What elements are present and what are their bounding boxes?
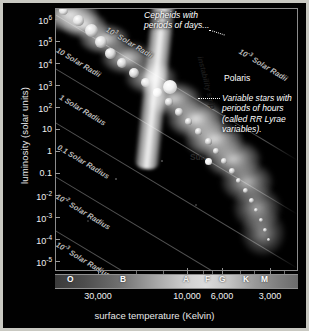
annotation-sun: Sun — [190, 152, 206, 162]
y-tick-10: 10 — [16, 124, 52, 134]
y-tick-mark — [55, 63, 60, 64]
y-axis-tick-group: 106 105 104 103 102 10 1 0.1 10-2 10-3 1… — [10, 0, 52, 331]
star-glow — [241, 210, 285, 256]
star-point — [195, 128, 202, 135]
x-tick-mark-minor — [212, 270, 213, 274]
star-point — [205, 138, 212, 145]
y-tick-1e4: 104 — [16, 58, 52, 70]
instability-strip-band — [133, 8, 177, 170]
spectral-class-m: M — [261, 274, 268, 284]
star-point — [267, 238, 270, 241]
x-tick-label-10000: 10,000 — [173, 291, 201, 301]
x-tick-mark-3000 — [270, 268, 271, 274]
x-tick-mark-minor — [203, 270, 204, 274]
spectral-class-a: A — [183, 274, 189, 284]
y-tick-mark — [55, 151, 60, 152]
x-tick-mark-minor — [284, 270, 285, 274]
y-tick-1e-2: 10-2 — [16, 190, 52, 202]
star-glow — [205, 140, 261, 178]
y-tick-mark — [55, 173, 60, 174]
spectral-class-f: F — [205, 274, 210, 284]
star-point — [221, 158, 227, 164]
y-tick-mark — [55, 85, 60, 86]
y-tick-1: 1 — [16, 146, 52, 156]
spectral-class-k: K — [243, 274, 249, 284]
annotation-cepheids: Cepheids with periods of days... — [144, 10, 209, 31]
y-tick-mark — [55, 217, 60, 218]
y-tick-1e3: 103 — [16, 80, 52, 92]
x-tick-mark-30000 — [98, 268, 99, 274]
star-point — [243, 188, 248, 193]
star-point — [185, 118, 192, 125]
star-point — [129, 68, 139, 78]
annotation-rr-lyrae: Variable stars with periods of hours (ca… — [222, 93, 292, 135]
y-tick-mark — [55, 19, 60, 20]
y-tick-mark — [55, 107, 60, 108]
star-glow — [61, 12, 107, 38]
star-point — [153, 88, 162, 97]
spectral-class-b: B — [120, 274, 126, 284]
star-point — [249, 198, 254, 203]
leader-line-rrlyrae — [198, 98, 220, 99]
x-tick-label-6000: 6,000 — [211, 291, 234, 301]
y-tick-mark — [55, 129, 60, 130]
star-point — [263, 228, 267, 232]
x-tick-mark-minor — [254, 270, 255, 274]
y-tick-0-1: 0.1 — [16, 168, 52, 178]
star-point — [254, 208, 258, 212]
y-tick-1e-3: 10-3 — [16, 212, 52, 224]
annotation-rrlyrae-line2: periods of hours — [222, 103, 292, 113]
star-point — [117, 58, 127, 68]
y-tick-1e-4: 10-4 — [16, 234, 52, 246]
y-tick-1e-5: 10-5 — [16, 256, 52, 268]
star-point — [141, 78, 150, 87]
x-tick-label-30000: 30,000 — [84, 291, 112, 301]
star-point — [73, 15, 84, 26]
annotation-cepheids-line1: Cepheids with — [144, 10, 209, 20]
x-tick-label-3000: 3,000 — [259, 291, 282, 301]
plot-area — [55, 8, 298, 271]
background-star — [115, 178, 117, 180]
star-glow — [125, 62, 177, 94]
y-tick-mark — [55, 41, 60, 42]
y-tick-1e2: 102 — [16, 102, 52, 114]
spectral-class-o: O — [67, 274, 74, 284]
annotation-polaris: Polaris — [224, 73, 250, 83]
y-tick-mark — [55, 239, 60, 240]
annotation-rrlyrae-line1: Variable stars with — [222, 93, 292, 103]
star-point — [165, 98, 173, 106]
y-tick-1e5: 105 — [16, 36, 52, 48]
star-glow — [233, 186, 281, 230]
annotation-rrlyrae-line4: variables). — [222, 124, 292, 134]
star-point — [59, 8, 68, 15]
x-tick-mark-minor — [163, 270, 164, 274]
x-axis-label: surface temperature (Kelvin) — [0, 310, 309, 321]
y-tick-1e6: 106 — [16, 14, 52, 26]
annotation-cepheids-line2: periods of days... — [144, 20, 209, 30]
x-tick-mark-minor — [240, 270, 241, 274]
star-point — [259, 218, 263, 222]
star-point — [213, 148, 219, 154]
annotation-rrlyrae-line3: (called RR Lyrae — [222, 114, 292, 124]
radius-line-1000 — [55, 8, 298, 161]
background-star — [161, 160, 163, 162]
y-tick-mark — [55, 195, 60, 196]
spectral-class-g: G — [219, 274, 226, 284]
star-point — [175, 108, 183, 116]
hr-diagram-figure: luminosity (solar units) 106 105 104 103… — [0, 0, 309, 331]
x-tick-mark-minor — [136, 270, 137, 274]
y-tick-mark — [55, 261, 60, 262]
